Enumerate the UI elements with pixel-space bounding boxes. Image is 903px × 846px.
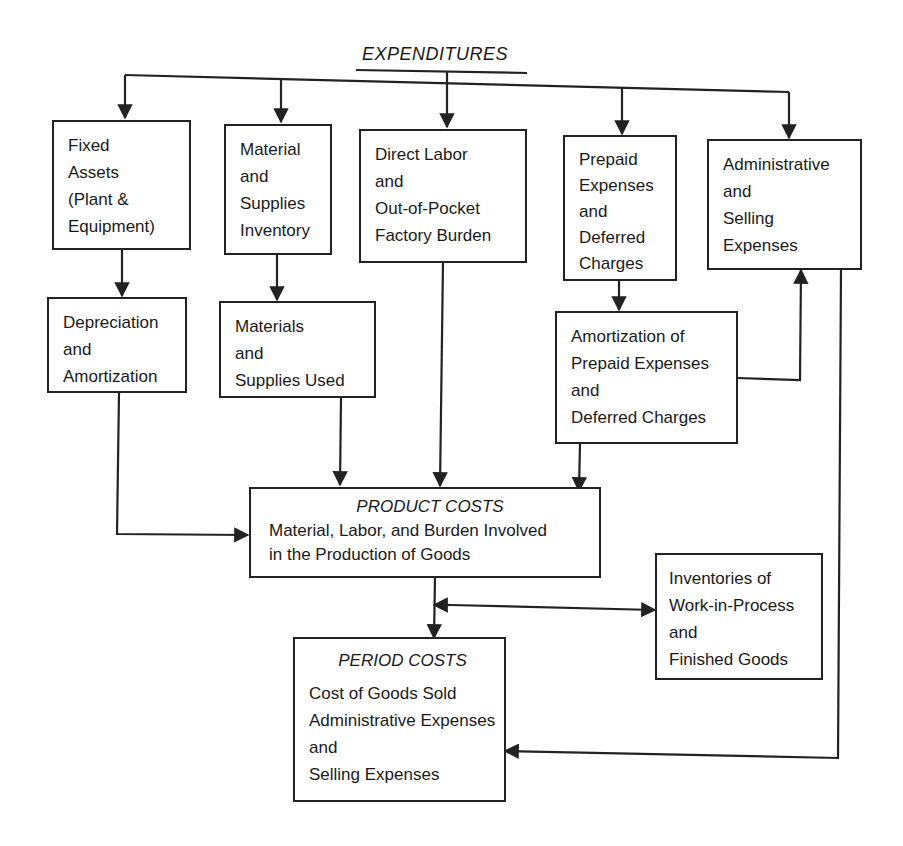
box-text: Inventory	[240, 217, 320, 244]
box-text: Charges	[579, 251, 665, 277]
box-text: Equipment)	[68, 213, 179, 240]
product-costs-box: PRODUCT COSTS Material, Labor, and Burde…	[249, 487, 601, 578]
material-supplies-inventory-box: Material and Supplies Inventory	[224, 124, 332, 255]
box-text: and	[375, 168, 515, 195]
depreciation-box: Depreciation and Amortization	[47, 297, 187, 393]
inventories-box: Inventories of Work-in-Process and Finis…	[655, 553, 823, 680]
box-text: and	[571, 377, 726, 404]
period-costs-heading: PERIOD COSTS	[309, 647, 496, 674]
box-text: and	[723, 178, 850, 205]
box-text: and	[235, 340, 364, 367]
box-text: and	[669, 619, 813, 646]
box-text: Material, Labor, and Burden Involved	[269, 519, 591, 543]
prepaid-expenses-box: Prepaid Expenses and Deferred Charges	[563, 135, 677, 281]
box-text: and	[579, 199, 665, 225]
box-text: Prepaid Expenses	[571, 350, 726, 377]
box-text: Out-of-Pocket	[375, 195, 515, 222]
box-text: Expenses	[723, 232, 850, 259]
box-text: Selling	[723, 205, 850, 232]
expenditures-title: EXPENDITURES	[362, 44, 508, 65]
box-text: Factory Burden	[375, 222, 515, 249]
box-text: Deferred Charges	[571, 404, 726, 431]
box-text: Prepaid	[579, 147, 665, 173]
box-text: and	[240, 163, 320, 190]
box-text: Inventories of	[669, 565, 813, 592]
box-text: Amortization	[63, 363, 175, 390]
box-text: Depreciation	[63, 309, 175, 336]
box-text: (Plant &	[68, 186, 179, 213]
box-text: Amortization of	[571, 323, 726, 350]
box-text: Supplies Used	[235, 367, 364, 394]
box-text: Cost of Goods Sold	[309, 680, 496, 707]
admin-selling-box: Administrative and Selling Expenses	[707, 139, 862, 270]
box-text: Work-in-Process	[669, 592, 813, 619]
direct-labor-box: Direct Labor and Out-of-Pocket Factory B…	[359, 129, 527, 263]
box-text: Administrative	[723, 151, 850, 178]
box-text: Material	[240, 136, 320, 163]
box-text: Assets	[68, 159, 179, 186]
box-text: Supplies	[240, 190, 320, 217]
materials-used-box: Materials and Supplies Used	[219, 301, 376, 398]
box-text: Expenses	[579, 173, 665, 199]
box-text: in the Production of Goods	[269, 543, 591, 567]
period-costs-box: PERIOD COSTS Cost of Goods Sold Administ…	[293, 637, 506, 802]
amortization-prepaid-box: Amortization of Prepaid Expenses and Def…	[555, 311, 738, 444]
box-text: and	[63, 336, 175, 363]
box-text: Finished Goods	[669, 646, 813, 673]
box-text: Direct Labor	[375, 141, 515, 168]
box-text: Administrative Expenses	[309, 707, 496, 734]
fixed-assets-box: Fixed Assets (Plant & Equipment)	[52, 120, 191, 250]
box-text: Deferred	[579, 225, 665, 251]
box-text: Materials	[235, 313, 364, 340]
box-text: Fixed	[68, 132, 179, 159]
product-costs-heading: PRODUCT COSTS	[269, 495, 591, 519]
box-text: Selling Expenses	[309, 761, 496, 788]
box-text: and	[309, 734, 496, 761]
